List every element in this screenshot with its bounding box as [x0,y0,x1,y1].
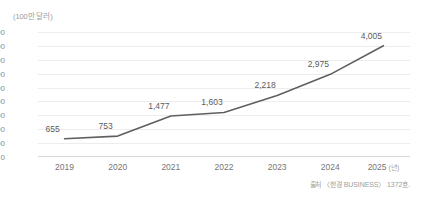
source-note: 출처 〈한경 BUSINESS〉 1372호. [310,179,410,189]
x-axis-tick-label: 2025(년) [368,162,400,172]
x-axis-unit-suffix: (년) [389,164,400,171]
y-axis-tick-label: 3,500 [0,55,5,64]
series-line [38,32,410,157]
data-point-label: 655 [45,124,59,134]
x-axis-tick-label: 2022 [215,162,234,172]
x-axis-tick-label: 2024 [321,162,340,172]
y-axis-tick-label: 2,500 [0,83,5,92]
data-point-label: 753 [99,121,113,131]
y-axis-tick-label: 0 [0,153,5,162]
x-axis-tick-label: 2019 [55,162,74,172]
y-axis-tick-label: 1,500 [0,111,5,120]
data-point-label: 2,975 [308,59,329,69]
data-point-label: 1,603 [201,97,222,107]
unit-caption: (100만 달러) [13,10,53,21]
data-point-label: 2,218 [255,80,276,90]
y-axis-tick-label: 500 [0,139,5,148]
y-axis-tick-label: 1,000 [0,125,5,134]
y-axis-tick-label: 4,000 [0,41,5,50]
x-axis-tick-label: 2023 [268,162,287,172]
plot-area [38,32,410,157]
y-axis-tick-label: 4,500 [0,28,5,37]
line-chart-figure: (100만 달러) 05001,0001,5002,0002,5003,0003… [0,0,422,199]
data-point-label: 1,477 [148,101,169,111]
y-axis-tick-label: 3,000 [0,69,5,78]
x-axis-tick-label: 2021 [161,162,180,172]
data-point-label: 4,005 [361,31,382,41]
y-axis-tick-label: 2,000 [0,97,5,106]
x-axis-tick-label: 2020 [108,162,127,172]
